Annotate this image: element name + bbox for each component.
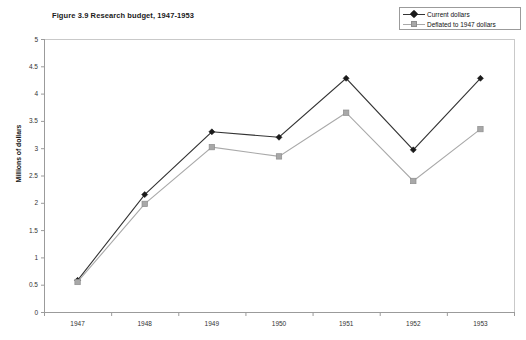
plot-frame — [45, 40, 515, 313]
data-point-square — [209, 144, 214, 149]
figure-container: Figure 3.9 Research budget, 1947-1953 Cu… — [0, 0, 526, 340]
data-point-square — [411, 178, 416, 183]
data-point-square — [75, 279, 80, 284]
data-point-square — [343, 110, 348, 115]
data-point-square — [142, 201, 147, 206]
data-point-square — [478, 126, 483, 131]
plot-area — [0, 0, 526, 340]
series-line-current-dollars — [78, 78, 481, 280]
data-point-square — [276, 154, 281, 159]
